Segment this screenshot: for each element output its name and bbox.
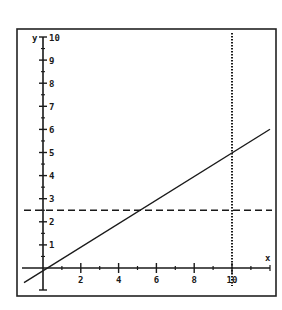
y-tick-label: 8: [49, 79, 54, 89]
y-tick-label: 4: [49, 171, 55, 181]
y-tick-label: 10: [49, 33, 60, 43]
x-axis-label: x: [265, 253, 271, 263]
x-tick-label: 8: [191, 275, 196, 285]
y-tick-label: 1: [49, 240, 54, 250]
y-tick-label: 9: [49, 56, 54, 66]
x-tick-label: 10: [227, 275, 238, 285]
y-tick-label: 5: [49, 148, 54, 158]
line-chart: 24681012345678910yx: [0, 0, 282, 310]
x-tick-label: 4: [116, 275, 122, 285]
x-tick-label: 6: [154, 275, 159, 285]
series-solid-line: [24, 129, 270, 282]
ticks: [39, 37, 251, 273]
y-tick-label: 3: [49, 194, 54, 204]
tick-labels: 24681012345678910yx: [32, 33, 271, 286]
y-tick-label: 7: [49, 102, 54, 112]
chart-frame: [17, 29, 276, 296]
series: [24, 33, 272, 286]
x-tick-label: 2: [78, 275, 83, 285]
chart: 24681012345678910yx: [0, 0, 282, 310]
y-tick-label: 6: [49, 125, 54, 135]
y-tick-label: 2: [49, 217, 54, 227]
y-axis-label: y: [32, 33, 38, 43]
